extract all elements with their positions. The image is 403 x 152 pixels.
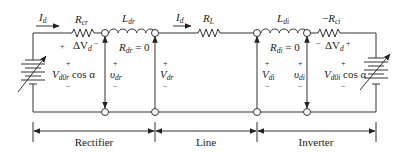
vd0i-plus: + bbox=[341, 59, 346, 68]
vd0r-label: Vd0r cos α bbox=[52, 68, 95, 82]
current-label-left: Id bbox=[38, 11, 47, 25]
vdr-label: Vdr bbox=[160, 68, 173, 82]
hvdc-circuit-diagram: Id Id Rcr + ΔVd − Ldr Rdr = 0 RL Ldi Rdi… bbox=[0, 0, 403, 152]
region-label-inverter: Inverter bbox=[299, 136, 334, 148]
vd0r-minus: − bbox=[66, 82, 71, 91]
node-icon bbox=[102, 109, 109, 116]
vdr-minus: − bbox=[163, 82, 168, 91]
label-rdr: Rdr = 0 bbox=[118, 41, 150, 55]
inductor-ldr-icon bbox=[109, 29, 155, 33]
vdi-small-plus: + bbox=[298, 59, 303, 68]
node-icon bbox=[304, 30, 311, 37]
vdi-plus: + bbox=[265, 59, 270, 68]
node-icon bbox=[152, 30, 159, 37]
node-icon bbox=[102, 30, 109, 37]
inductor-ldi-icon bbox=[261, 29, 307, 33]
label-rdi: Rdi = 0 bbox=[269, 41, 300, 55]
delta-vd-right-plus: + bbox=[346, 39, 351, 48]
vdi-label: Vdi bbox=[262, 68, 275, 82]
vdr-small-label: υdr bbox=[110, 68, 122, 82]
vd0i-label: Vd0i cos α bbox=[324, 68, 366, 82]
delta-vd-right-label: ΔVd bbox=[325, 39, 344, 53]
label-rcr: Rcr bbox=[74, 13, 88, 27]
resistor-rci-icon bbox=[318, 29, 342, 37]
delta-vd-left-label: ΔVd bbox=[73, 39, 92, 53]
delta-vd-right-minus: − bbox=[316, 39, 321, 48]
label-rci: −Rci bbox=[322, 12, 340, 26]
vdi-small-label: υdi bbox=[294, 68, 305, 82]
region-label-rectifier: Rectifier bbox=[75, 136, 114, 148]
delta-vd-left-minus: − bbox=[94, 39, 99, 48]
node-icon bbox=[152, 109, 159, 116]
resistor-rcr-icon bbox=[72, 29, 96, 37]
vd0r-plus: + bbox=[66, 59, 71, 68]
node-icon bbox=[254, 30, 261, 37]
node-icon bbox=[304, 109, 311, 116]
label-ldr: Ldr bbox=[121, 12, 135, 26]
current-label-middle: Id bbox=[175, 11, 184, 25]
vdr-plus: + bbox=[163, 59, 168, 68]
vdi-minus: − bbox=[265, 82, 270, 91]
label-ldi: Ldi bbox=[276, 12, 289, 26]
region-label-line: Line bbox=[196, 136, 216, 148]
resistor-rl-icon bbox=[198, 29, 222, 37]
label-rl: RL bbox=[202, 12, 214, 26]
vd0i-minus: − bbox=[341, 82, 346, 91]
node-icon bbox=[254, 109, 261, 116]
delta-vd-left-plus: + bbox=[60, 42, 65, 51]
vdi-small-minus: − bbox=[298, 82, 303, 91]
vdr-small-plus: + bbox=[113, 59, 118, 68]
vdr-small-minus: − bbox=[113, 82, 118, 91]
variable-battery-left-icon bbox=[18, 56, 46, 92]
